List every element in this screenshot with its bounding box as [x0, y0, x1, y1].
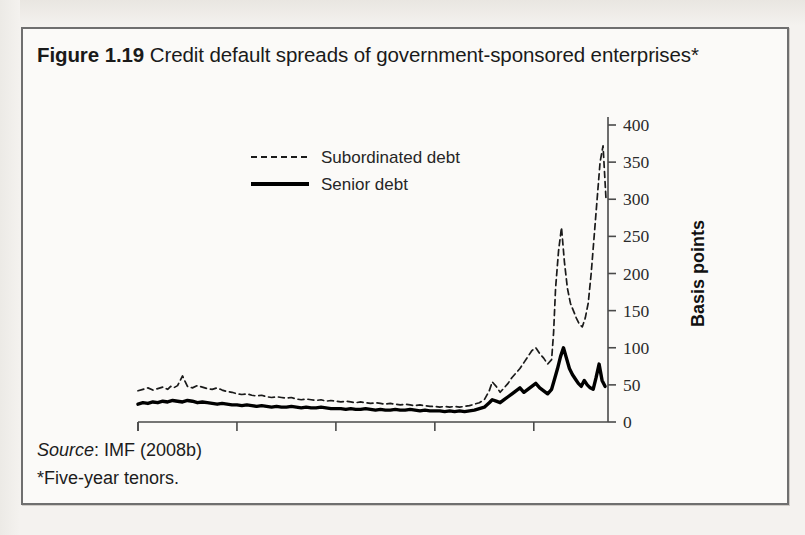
legend-label-2: Senior debt	[321, 175, 408, 194]
scan-edge-left	[0, 0, 20, 535]
y-axis-tick-label: 250	[623, 226, 650, 246]
y-axis-tick-label: 350	[623, 152, 650, 172]
series-line-senior-debt	[138, 348, 605, 412]
y-axis-tick-label: 400	[623, 115, 650, 135]
figure-title: Figure 1.19 Credit default spreads of go…	[37, 43, 777, 67]
figure-title-text: Credit default spreads of government-spo…	[150, 43, 699, 66]
source-line: Source: IMF (2008b)	[37, 440, 202, 460]
y-axis-tick-label: 100	[623, 338, 650, 358]
scan-edge-top	[0, 0, 805, 26]
y-axis-tick-label: 0	[623, 412, 632, 432]
figure-footer: Source: IMF (2008b) *Five-year tenors.	[37, 437, 737, 491]
y-axis-tick-label: 300	[623, 189, 650, 209]
y-axis-tick-label: 50	[623, 375, 641, 395]
figure-number: Figure 1.19	[37, 43, 144, 66]
legend-label-1: Subordinated debt	[321, 148, 460, 167]
y-axis-tick-label: 150	[623, 301, 650, 321]
cds-line-chart: 0501001502002503003504002004200520062007…	[23, 85, 791, 435]
y-axis-tick-label: 200	[623, 264, 650, 284]
figure-page: Figure 1.19 Credit default spreads of go…	[0, 0, 805, 535]
source-value: : IMF (2008b)	[94, 440, 202, 460]
footnote-line: *Five-year tenors.	[37, 465, 737, 491]
figure-container: Figure 1.19 Credit default spreads of go…	[21, 27, 789, 505]
chart-plot-area: 0501001502002503003504002004200520062007…	[23, 85, 791, 435]
source-label: Source	[37, 440, 94, 460]
y-axis-title: Basis points	[688, 220, 708, 327]
